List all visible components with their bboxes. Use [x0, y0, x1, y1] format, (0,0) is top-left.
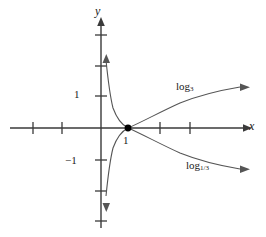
y-tick-label-negative-one: −1: [65, 155, 77, 166]
x-tick-label-one: 1: [123, 135, 129, 146]
x-axis-label: x: [249, 120, 254, 132]
curve-log3-arrowhead-right: [240, 83, 250, 91]
curve-log3-arrowhead-down: [103, 203, 111, 212]
curve-log13-arrowhead-right: [240, 165, 250, 173]
curve-label-log13-base: log: [186, 159, 200, 171]
curve-label-log3-subscript: 3: [190, 85, 194, 93]
y-axis-arrowhead: [97, 17, 105, 26]
plot-canvas: [0, 0, 266, 237]
intersection-point-dot: [125, 125, 132, 132]
curve-log13-arrowhead-up: [103, 54, 111, 63]
y-axis-label: y: [95, 5, 100, 17]
curve-label-log13: log1/3: [186, 160, 209, 172]
logarithm-figure: y x 1 −1 1 log3 log1/3: [0, 0, 266, 237]
y-tick-label-one: 1: [74, 89, 80, 100]
curve-log13: [106, 60, 240, 169]
curve-label-log13-subscript: 1/3: [200, 164, 209, 172]
curve-label-log3-base: log: [176, 80, 190, 92]
curve-label-log3: log3: [176, 81, 194, 93]
